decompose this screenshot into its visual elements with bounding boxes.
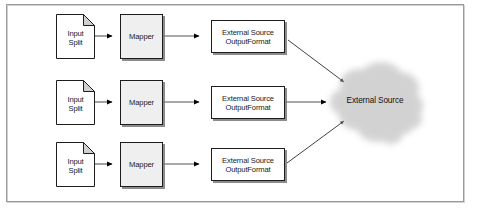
mapper-box — [120, 80, 163, 125]
input-split-1[interactable]: Input Split — [56, 14, 95, 59]
document-icon — [56, 80, 95, 125]
output-format-box — [211, 20, 285, 53]
figure-root: Input Split Mapper External Source Outpu… — [0, 0, 477, 215]
document-icon — [56, 14, 95, 59]
output-format-1[interactable]: External Source OutputFormat — [211, 20, 285, 53]
input-split-3[interactable]: Input Split — [56, 142, 95, 187]
input-split-2[interactable]: Input Split — [56, 80, 95, 125]
output-format-box — [211, 86, 285, 119]
output-format-3[interactable]: External Source OutputFormat — [211, 148, 285, 181]
mapper-3[interactable]: Mapper — [120, 142, 163, 187]
document-icon — [56, 142, 95, 187]
mapper-1[interactable]: Mapper — [120, 14, 163, 59]
mapper-2[interactable]: Mapper — [120, 80, 163, 125]
output-format-2[interactable]: External Source OutputFormat — [211, 86, 285, 119]
output-format-box — [211, 148, 285, 181]
mapper-box — [120, 142, 163, 187]
external-source-label: External Source — [325, 96, 425, 105]
external-source-cloud[interactable]: External Source — [325, 58, 425, 146]
mapper-box — [120, 14, 163, 59]
